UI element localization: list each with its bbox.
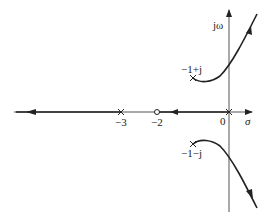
pole-minus3-label: −3 — [115, 117, 127, 128]
arrow-left-icon — [26, 109, 36, 115]
root-locus-plot — [0, 0, 278, 222]
root-locus-diagram: jω σ 0 −1+j −1−j −3 −2 — [0, 0, 278, 222]
origin-label: 0 — [220, 116, 226, 127]
locus-lower-branch — [193, 140, 257, 208]
zero-minus2-label: −2 — [151, 117, 163, 128]
zero-minus2-icon — [155, 110, 160, 115]
pole-upper-icon — [190, 75, 196, 81]
pole-upper-label: −1+j — [181, 64, 202, 75]
imag-axis-label: jω — [213, 20, 223, 31]
arrow-lower-icon — [246, 189, 253, 199]
real-axis-label: σ — [245, 116, 250, 127]
locus-upper-branch — [193, 14, 257, 82]
arrow-segment-icon — [170, 109, 178, 115]
pole-lower-label: −1−j — [181, 148, 202, 159]
